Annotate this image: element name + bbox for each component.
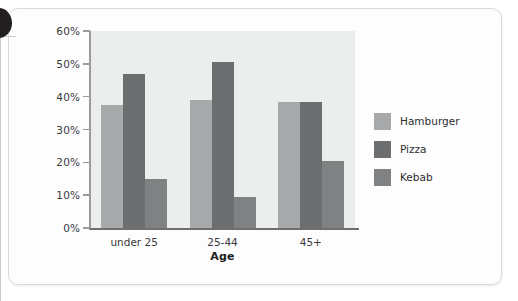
bar-kebab-under-25	[145, 179, 167, 228]
x-axis-line	[89, 228, 359, 230]
legend: HamburgerPizzaKebab	[374, 110, 459, 194]
y-tick-label: 40%	[40, 91, 80, 103]
y-tick-label: 30%	[40, 124, 80, 136]
y-tick-label-text: 10%	[42, 189, 80, 201]
bar-chart: 0%10%20%30%40%50%60% under 2525-4445+ Ag…	[0, 0, 518, 301]
y-tick-label: 60%	[40, 25, 80, 37]
y-tick-label-text: 0%	[42, 222, 80, 234]
bar-kebab-45+	[322, 161, 344, 228]
x-tick-label: 25-44	[178, 236, 268, 248]
legend-item-hamburger[interactable]: Hamburger	[374, 110, 459, 132]
y-tick-mark	[83, 194, 90, 195]
legend-label: Pizza	[400, 143, 426, 155]
legend-item-pizza[interactable]: Pizza	[374, 138, 459, 160]
legend-swatch-icon	[374, 141, 391, 158]
page-edge-rule	[0, 36, 1, 301]
page-canvas: 0%10%20%30%40%50%60% under 2525-4445+ Ag…	[0, 0, 518, 301]
y-tick-label-text: 60%	[42, 25, 80, 37]
y-tick-label: 10%	[40, 189, 80, 201]
y-tick-label: 50%	[40, 58, 80, 70]
bar-pizza-under-25	[123, 74, 145, 228]
y-tick-mark	[83, 96, 90, 97]
y-tick-label-text: 30%	[42, 124, 80, 136]
y-tick-mark	[83, 227, 90, 228]
x-tick-label: 45+	[266, 236, 356, 248]
legend-swatch-icon	[374, 169, 391, 186]
y-tick-mark	[83, 129, 90, 130]
legend-swatch-icon	[374, 113, 391, 130]
y-tick-label-text: 20%	[42, 156, 80, 168]
y-tick-label-text: 50%	[42, 58, 80, 70]
y-tick-mark	[83, 30, 90, 31]
legend-label: Kebab	[400, 171, 433, 183]
y-tick-label: 0%	[40, 222, 80, 234]
bar-hamburger-25-44	[190, 100, 212, 228]
x-tick-label: under 25	[89, 236, 179, 248]
bar-kebab-25-44	[234, 197, 256, 228]
bar-pizza-25-44	[212, 62, 234, 228]
y-tick-mark	[83, 63, 90, 64]
legend-label: Hamburger	[400, 115, 459, 127]
bar-hamburger-under-25	[101, 105, 123, 228]
y-tick-label-text: 40%	[42, 91, 80, 103]
y-tick-label: 20%	[40, 156, 80, 168]
bar-pizza-45+	[300, 102, 322, 228]
x-axis-title: Age	[90, 250, 355, 263]
bar-hamburger-45+	[278, 102, 300, 228]
legend-item-kebab[interactable]: Kebab	[374, 166, 459, 188]
y-tick-mark	[83, 162, 90, 163]
